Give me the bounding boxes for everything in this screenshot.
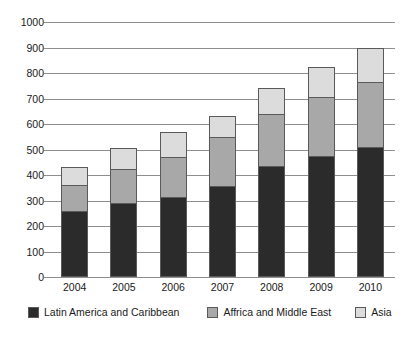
- legend-label-latin-america: Latin America and Caribbean: [44, 307, 179, 318]
- x-axis-tick-label-2010: 2010: [359, 282, 382, 293]
- legend-item-africa-middle-east: Affrica and Middle East: [207, 307, 331, 318]
- legend-item-latin-america: Latin America and Caribbean: [28, 307, 179, 318]
- y-axis-tick-label-0: 0: [38, 272, 44, 283]
- bar-stack: [160, 132, 187, 277]
- bar-group[interactable]: 2006: [160, 22, 187, 277]
- y-axis-tick-label-200: 200: [26, 221, 44, 232]
- chart-legend: Latin America and Caribbean Affrica and …: [28, 307, 388, 318]
- bars-layer: 2004200520062007200820092010: [50, 22, 395, 277]
- bar-stack: [61, 167, 88, 277]
- bar-segment[interactable]: [209, 137, 236, 185]
- legend-label-africa-middle-east: Affrica and Middle East: [223, 307, 331, 318]
- bar-segment[interactable]: [357, 147, 384, 277]
- bar-segment[interactable]: [308, 67, 335, 98]
- bar-segment[interactable]: [357, 48, 384, 82]
- bar-segment[interactable]: [110, 148, 137, 168]
- y-axis-tick-label-300: 300: [26, 195, 44, 206]
- bar-stack: [209, 116, 236, 277]
- bar-group[interactable]: 2008: [258, 22, 285, 277]
- x-axis-tick-label-2009: 2009: [309, 282, 332, 293]
- bar-segment[interactable]: [357, 82, 384, 147]
- x-axis-tick-label-2005: 2005: [112, 282, 135, 293]
- plot-area: 01002003004005006007008009001000 2004200…: [50, 22, 395, 277]
- bar-segment[interactable]: [61, 211, 88, 277]
- y-axis-tick-label-400: 400: [26, 170, 44, 181]
- bar-stack: [357, 48, 384, 277]
- x-axis-tick-label-2006: 2006: [162, 282, 185, 293]
- legend-label-asia: Asia: [371, 307, 391, 318]
- bar-stack: [110, 148, 137, 277]
- bar-segment[interactable]: [209, 116, 236, 137]
- bar-group[interactable]: 2005: [110, 22, 137, 277]
- legend-swatch-asia: [355, 307, 366, 318]
- bar-segment[interactable]: [110, 169, 137, 203]
- bar-segment[interactable]: [258, 166, 285, 277]
- bar-segment[interactable]: [160, 197, 187, 277]
- bar-segment[interactable]: [308, 156, 335, 277]
- bar-group[interactable]: 2010: [357, 22, 384, 277]
- x-axis-tick-label-2008: 2008: [260, 282, 283, 293]
- bar-stack: [258, 88, 285, 277]
- y-axis-tick-label-600: 600: [26, 119, 44, 130]
- bar-stack: [308, 67, 335, 277]
- legend-item-asia: Asia: [355, 307, 391, 318]
- bar-group[interactable]: 2007: [209, 22, 236, 277]
- y-axis-tick-mark-0: [44, 277, 50, 278]
- legend-swatch-africa-middle-east: [207, 307, 218, 318]
- y-axis-tick-label-900: 900: [26, 42, 44, 53]
- bar-group[interactable]: 2009: [308, 22, 335, 277]
- bar-segment[interactable]: [110, 203, 137, 277]
- bar-group[interactable]: 2004: [61, 22, 88, 277]
- stacked-bar-chart: 01002003004005006007008009001000 2004200…: [0, 0, 407, 339]
- y-axis-tick-label-800: 800: [26, 68, 44, 79]
- y-axis-tick-label-700: 700: [26, 93, 44, 104]
- x-axis-tick-label-2004: 2004: [63, 282, 86, 293]
- x-axis-tick-label-2007: 2007: [211, 282, 234, 293]
- bar-segment[interactable]: [209, 186, 236, 277]
- bar-segment[interactable]: [308, 97, 335, 156]
- y-axis-tick-label-500: 500: [26, 144, 44, 155]
- bar-segment[interactable]: [160, 157, 187, 197]
- bar-segment[interactable]: [61, 167, 88, 185]
- bar-segment[interactable]: [61, 185, 88, 211]
- bar-segment[interactable]: [160, 132, 187, 157]
- y-axis-tick-label-100: 100: [26, 246, 44, 257]
- gridline-0: 0: [50, 277, 395, 278]
- y-axis-tick-label-1000: 1000: [21, 17, 44, 28]
- legend-swatch-latin-america: [28, 307, 39, 318]
- bar-segment[interactable]: [258, 88, 285, 114]
- bar-segment[interactable]: [258, 114, 285, 166]
